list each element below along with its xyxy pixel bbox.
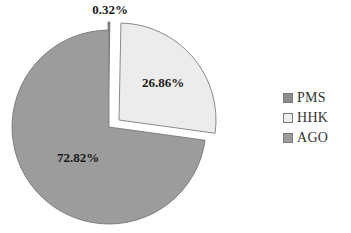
legend-label-hhk: HHK — [297, 110, 328, 126]
legend-item-hhk: HHK — [283, 108, 328, 128]
legend-swatch-hhk — [283, 113, 293, 123]
legend-swatch-ago — [283, 133, 293, 143]
slice-label-pms: 0.32% — [92, 2, 128, 17]
slice-label-hhk: 26.86% — [142, 75, 184, 90]
legend: PMS HHK AGO — [283, 88, 328, 148]
legend-label-pms: PMS — [297, 90, 326, 106]
legend-item-ago: AGO — [283, 128, 328, 148]
legend-label-ago: AGO — [297, 130, 328, 146]
legend-item-pms: PMS — [283, 88, 328, 108]
pie-chart: 0.32%26.86%72.82% — [0, 0, 260, 233]
slice-label-ago: 72.82% — [57, 150, 99, 165]
legend-swatch-pms — [283, 93, 293, 103]
